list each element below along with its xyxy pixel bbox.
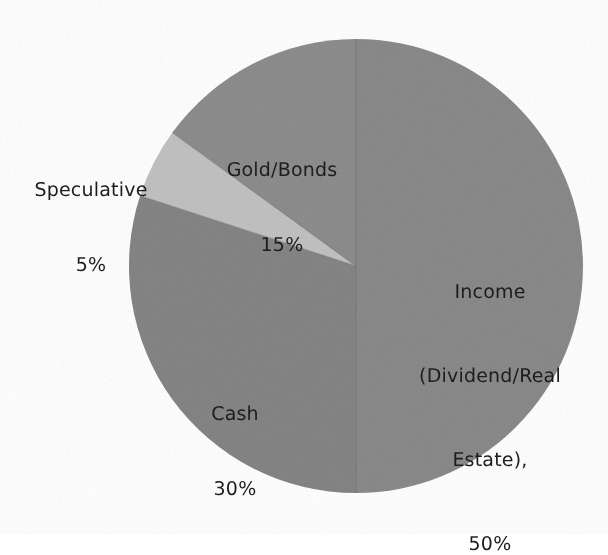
pie-label-cash: Cash 30% (160, 352, 310, 552)
pie-label-income-line2: (Dividend/Real (392, 362, 588, 390)
pie-label-goldbonds-value: 15% (196, 233, 368, 258)
pie-label-speculative: Speculative 5% (6, 128, 176, 328)
pie-label-income-value: 50% (392, 530, 588, 555)
pie-label-income-line1: Income (392, 278, 588, 306)
pie-label-cash-value: 30% (160, 477, 310, 502)
pie-label-speculative-value: 5% (6, 253, 176, 278)
pie-label-income-line3: Estate), (392, 446, 588, 474)
pie-label-goldbonds-name: Gold/Bonds (196, 158, 368, 183)
pie-label-goldbonds: Gold/Bonds 15% (196, 108, 368, 308)
pie-label-cash-name: Cash (160, 402, 310, 427)
pie-label-speculative-name: Speculative (6, 178, 176, 203)
pie-label-income: Income (Dividend/Real Estate), 50% (392, 222, 588, 555)
